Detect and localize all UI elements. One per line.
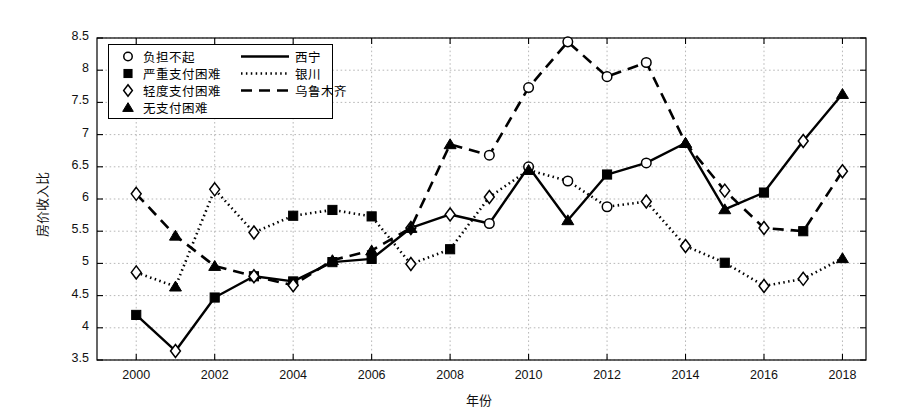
y-tick-label: 6.5 [72, 158, 89, 172]
circle-open-icon [115, 48, 141, 65]
x-tick-label: 2018 [826, 368, 858, 382]
x-tick-label: 2004 [277, 368, 309, 382]
y-tick-label: 6 [82, 190, 89, 204]
legend-line-sample-solid [237, 48, 293, 65]
y-tick-label: 7.5 [72, 93, 89, 107]
x-tick-label: 2012 [591, 368, 623, 382]
y-tick-label: 4.5 [72, 287, 89, 301]
legend-series-item-1[interactable]: 西宁 [237, 48, 321, 65]
y-tick-label: 8 [82, 61, 89, 75]
x-tick-label: 2008 [434, 368, 466, 382]
y-tick-label: 5.5 [72, 222, 89, 236]
x-tick-label: 2006 [356, 368, 388, 382]
triangle-filled-icon [115, 99, 141, 116]
legend-series-label: 乌鲁木齐 [295, 81, 347, 100]
chart-legend: 负担不起严重支付困难轻度支付困难无支付困难西宁银川乌鲁木齐 [108, 44, 333, 119]
legend-line-sample-dotted [237, 65, 293, 82]
x-tick-label: 2010 [513, 368, 545, 382]
legend-series-item-3[interactable]: 乌鲁木齐 [237, 82, 347, 99]
legend-marker-label: 无支付困难 [143, 98, 208, 117]
y-tick-label: 5 [82, 254, 89, 268]
chart-container: 房价收入比 年份 负担不起严重支付困难轻度支付困难无支付困难西宁银川乌鲁木齐 3… [0, 0, 900, 416]
legend-marker-item-2[interactable]: 严重支付困难 [115, 65, 221, 82]
legend-series-item-2[interactable]: 银川 [237, 65, 321, 82]
legend-marker-item-1[interactable]: 负担不起 [115, 48, 195, 65]
x-tick-label: 2000 [120, 368, 152, 382]
y-tick-label: 3.5 [72, 351, 89, 365]
y-tick-label: 8.5 [72, 29, 89, 43]
y-tick-label: 4 [82, 319, 89, 333]
legend-marker-item-4[interactable]: 无支付困难 [115, 99, 208, 116]
legend-marker-item-3[interactable]: 轻度支付困难 [115, 82, 221, 99]
x-tick-label: 2014 [670, 368, 702, 382]
x-tick-label: 2002 [199, 368, 231, 382]
x-axis-label: 年份 [466, 390, 492, 409]
series-西宁 [132, 89, 849, 358]
diamond-open-icon [115, 82, 141, 99]
y-tick-label: 7 [82, 126, 89, 140]
x-tick-label: 2016 [748, 368, 780, 382]
legend-line-sample-dashed [237, 82, 293, 99]
square-filled-icon [115, 65, 141, 82]
y-axis-label: 房价收入比 [32, 172, 51, 237]
